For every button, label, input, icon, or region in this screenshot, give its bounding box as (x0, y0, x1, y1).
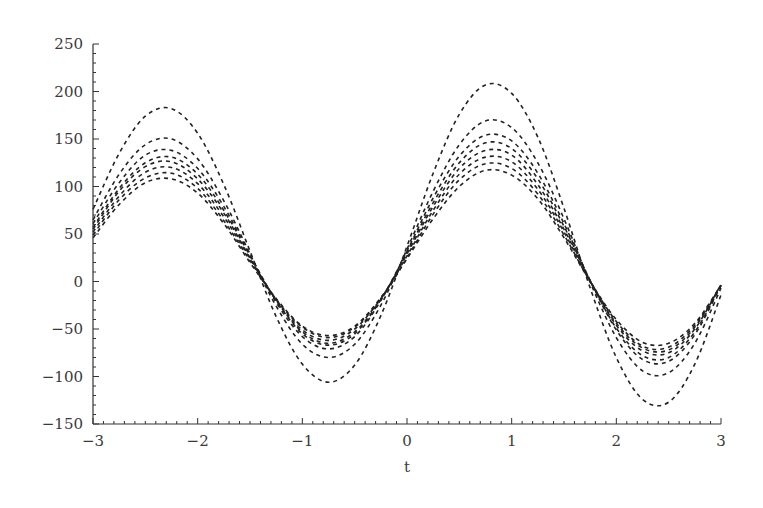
y-tick-label: 150 (54, 130, 83, 148)
x-axis-title: t (404, 458, 410, 476)
x-tick-label: 0 (402, 432, 412, 450)
x-ticks: −3−2−10123 (82, 418, 726, 450)
series-line-curve-1 (93, 84, 721, 406)
y-ticks: −150−100−50050100150200250 (42, 35, 99, 433)
y-tick-label: 250 (54, 35, 83, 53)
axes: −150−100−50050100150200250 −3−2−10123 (42, 35, 726, 450)
y-tick-label: 0 (73, 273, 83, 291)
series-line-curve-8 (93, 170, 721, 346)
x-tick-label: 3 (716, 432, 726, 450)
x-tick-label: −3 (82, 432, 104, 450)
series-line-curve-4 (93, 142, 721, 360)
y-tick-label: 50 (64, 225, 83, 243)
x-tick-label: 1 (507, 432, 517, 450)
x-tick-label: 2 (612, 432, 622, 450)
series-line-curve-3 (93, 134, 721, 364)
x-tick-label: −2 (187, 432, 209, 450)
plot-series (93, 84, 721, 406)
y-tick-label: 100 (54, 178, 83, 196)
y-tick-label: −50 (51, 320, 83, 338)
x-tick-label: −1 (291, 432, 313, 450)
y-tick-label: 200 (54, 83, 83, 101)
y-tick-label: −150 (42, 415, 83, 433)
chart-area: −150−100−50050100150200250 −3−2−10123 t (0, 0, 763, 508)
y-tick-label: −100 (42, 368, 83, 386)
